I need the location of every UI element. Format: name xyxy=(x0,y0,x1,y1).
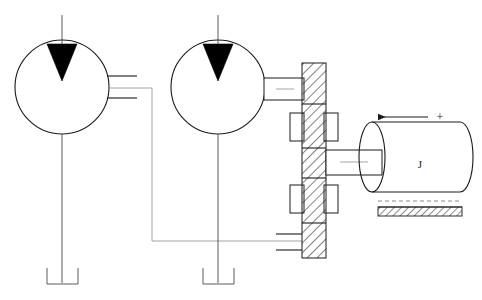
signal-centerline-route xyxy=(110,88,302,241)
drive-shaft-body xyxy=(326,150,382,175)
ground-symbol xyxy=(378,201,462,216)
column-left-ports xyxy=(276,234,302,250)
diagram-canvas: J + xyxy=(0,0,482,300)
cylinder-right-ellipse-arc xyxy=(460,122,473,192)
left-gauge-assembly xyxy=(15,15,137,284)
right-gauge-assembly xyxy=(171,15,265,284)
drive-shaft-assembly xyxy=(326,150,382,175)
right-gauge-pointer-triangle xyxy=(203,44,233,81)
mechanical-schematic: J + xyxy=(0,0,482,300)
ground-hatch-band xyxy=(378,207,462,216)
column-hatched-body xyxy=(302,63,326,258)
upper-shaft-assembly xyxy=(264,78,304,100)
inertia-label: J xyxy=(418,158,423,170)
right-gauge-base-stand xyxy=(203,268,234,284)
left-gauge-pointer-triangle xyxy=(47,44,77,81)
polarity-plus-label: + xyxy=(437,110,444,124)
left-gauge-base-stand xyxy=(47,268,78,284)
